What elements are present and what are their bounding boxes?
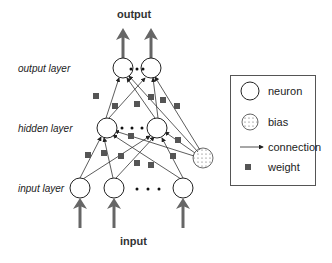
- input-label: input: [120, 235, 147, 247]
- neuron-icon: [241, 82, 259, 100]
- output-label: output: [117, 8, 151, 20]
- input-layer-label: input layer: [18, 183, 64, 194]
- bias-icon: [242, 114, 258, 130]
- output-layer-label: output layer: [18, 63, 70, 74]
- legend-connection: connection: [268, 141, 321, 153]
- legend-weight: weight: [268, 161, 300, 173]
- legend-neuron: neuron: [268, 85, 302, 97]
- input-arrows: [73, 198, 190, 228]
- legend-bias: bias: [268, 116, 288, 128]
- weight-icon: [245, 164, 251, 170]
- hidden-layer-label: hidden layer: [18, 123, 72, 134]
- bias-node: [193, 148, 213, 168]
- legend: neuron bias connection weight: [230, 75, 316, 186]
- output-arrows: [116, 28, 158, 58]
